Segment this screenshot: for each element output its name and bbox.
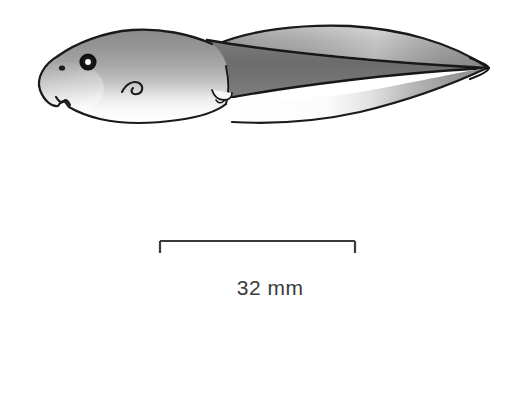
figure-root: 32 mm <box>0 0 517 408</box>
eye-highlight <box>85 59 91 65</box>
nostril <box>59 65 65 70</box>
scale-bar-label: 32 mm <box>237 276 304 300</box>
head-body-mass <box>28 30 229 123</box>
scale-bar-caption: 32 mm <box>160 252 355 324</box>
tadpole-illustration <box>0 0 517 408</box>
eye <box>79 53 96 70</box>
